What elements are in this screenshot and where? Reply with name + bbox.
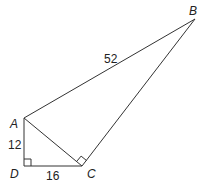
length-label-dc: 16 <box>46 169 60 183</box>
segment-ac <box>24 118 82 166</box>
right-angle-mark-c <box>77 156 87 161</box>
segment-ab <box>24 19 195 118</box>
vertex-label-c: C <box>87 167 96 181</box>
right-angle-mark-d <box>24 159 31 166</box>
length-label-ab: 52 <box>104 52 118 66</box>
vertex-label-d: D <box>10 167 19 181</box>
segment-cb <box>82 19 195 166</box>
length-label-ad: 12 <box>8 138 22 152</box>
geometry-figure: B A D C 52 12 16 <box>0 0 207 193</box>
vertex-label-a: A <box>9 117 18 131</box>
vertex-label-b: B <box>189 4 197 18</box>
